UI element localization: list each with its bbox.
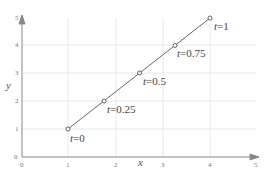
point-t0 [66,127,70,131]
y-tick-2: 2 [15,97,19,105]
label-t05: t=0.5 [143,75,167,87]
label-t1: t=1 [214,20,229,32]
x-tick-0: 0 [20,161,24,169]
x-tick-3: 3 [161,161,165,169]
y-axis-arrow-icon [19,15,25,24]
axes [19,15,259,160]
x-tick-4: 4 [208,161,212,169]
x-tick-1: 1 [66,161,70,169]
x-tick-2: 2 [114,161,118,169]
y-tick-labels: 0 1 2 3 4 5 [14,14,19,161]
y-axis-label: y [5,79,11,91]
x-axis-label: x [137,156,143,168]
x-tick-5: 5 [254,161,258,169]
point-t05 [138,71,142,75]
y-tick-3: 3 [15,69,19,77]
x-axis-arrow-icon [250,154,259,160]
label-t075: t=0.75 [177,47,206,59]
grid [22,18,256,157]
chart: 0 1 2 3 4 5 0 1 2 3 4 5 y x t=0 t=0.25 t… [0,0,268,173]
y-tick-1: 1 [15,125,19,133]
point-t1 [208,16,212,20]
y-tick-0: 0 [14,153,18,161]
label-t0: t=0 [70,132,85,144]
y-tick-5: 5 [15,14,19,22]
point-t025 [102,99,106,103]
label-t025: t=0.25 [107,103,136,115]
y-tick-4: 4 [15,41,19,49]
